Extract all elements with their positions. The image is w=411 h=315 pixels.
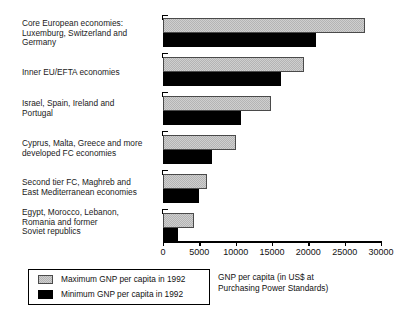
x-tick-2 [236,241,237,246]
bar-max-5 [163,213,194,228]
x-tick-label-0: 0 [160,247,165,258]
x-tick-label-5: 25000 [332,247,357,258]
bar-max-1 [163,57,304,72]
legend-swatch-min-icon [38,290,53,299]
plot-area [163,15,381,241]
bar-min-4 [163,189,199,203]
legend-box: Maximum GNP per capita in 1992 Minimum G… [28,269,210,305]
x-tick-label-1: 5000 [189,247,209,258]
bar-min-2 [163,111,241,125]
x-tick-label-3: 15000 [259,247,284,258]
legend-label-min: Minimum GNP per capita in 1992 [61,289,183,300]
bar-min-5 [163,228,178,242]
category-label-3: Cyprus, Malta, Greece and more developed… [22,139,162,158]
x-tick-label-4: 20000 [296,247,321,258]
category-label-0: Core European economies: Luxemburg, Swit… [22,19,162,48]
category-label-5: Egypt, Morocco, Lebanon, Romania and for… [22,208,162,237]
category-label-4: Second tier FC, Maghreb and East Mediter… [22,178,162,197]
bar-chart: Core European economies: Luxemburg, Swit… [0,0,411,315]
x-axis-title: GNP per capita (in US$ at Purchasing Pow… [218,272,398,293]
bar-min-3 [163,150,212,164]
category-label-1: Inner EU/EFTA economies [22,68,162,78]
legend-label-max: Maximum GNP per capita in 1992 [61,274,185,285]
bar-min-1 [163,72,281,86]
bar-max-2 [163,96,271,111]
x-tick-4 [308,241,309,246]
x-tick-1 [199,241,200,246]
bar-max-0 [163,18,365,33]
bar-max-4 [163,174,207,189]
x-tick-3 [272,241,273,246]
x-tick-0 [163,241,164,246]
x-tick-label-6: 30000 [368,247,393,258]
bar-max-3 [163,135,236,150]
bar-min-0 [163,33,316,47]
x-tick-6 [381,241,382,246]
category-label-2: Israel, Spain, Ireland and Portugal [22,99,162,118]
x-tick-label-2: 10000 [223,247,248,258]
legend-swatch-max-icon [38,275,53,284]
x-tick-5 [345,241,346,246]
